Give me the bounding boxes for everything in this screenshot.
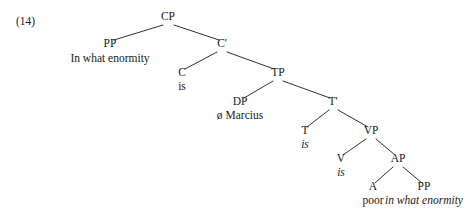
- terminal-pp-complement-trace: in what enormity: [385, 194, 464, 207]
- node-c: C: [178, 66, 186, 78]
- terminal-c: is: [178, 80, 186, 92]
- terminal-t-trace: is: [301, 138, 309, 150]
- node-c-bar: C': [217, 37, 227, 49]
- node-pp-complement: PP: [418, 180, 431, 192]
- example-number: (14): [16, 15, 35, 28]
- node-cp: CP: [161, 10, 175, 22]
- node-a: A: [369, 180, 378, 192]
- node-v: V: [337, 152, 346, 164]
- terminal-pp-specifier: In what enormity: [70, 52, 149, 65]
- node-pp-specifier: PP: [104, 37, 117, 49]
- terminal-a: poor: [362, 194, 383, 207]
- node-t: T: [301, 124, 308, 136]
- node-t-bar: T': [328, 95, 337, 107]
- node-vp: VP: [364, 124, 379, 136]
- terminal-v-trace: is: [337, 166, 345, 178]
- node-ap: AP: [391, 152, 406, 164]
- node-tp: TP: [271, 66, 284, 78]
- syntax-tree-diagram: (14) CP PP C' C TP DP T' T VP V AP A PP …: [0, 0, 472, 223]
- node-dp: DP: [233, 95, 248, 107]
- terminal-dp: ø Marcius: [217, 109, 264, 121]
